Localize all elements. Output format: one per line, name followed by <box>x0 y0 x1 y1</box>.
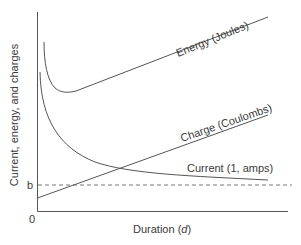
charge-label: Charge (Coulombs) <box>179 101 274 144</box>
chart: Energy (Joules) Charge (Coulombs) Curren… <box>0 0 301 245</box>
x-axis-label: Duration (d) <box>133 223 191 235</box>
x-axis-label-text: Duration ( <box>133 223 182 235</box>
y-axis-label: Current, energy, and charges <box>8 43 20 186</box>
charge-line <box>38 115 269 198</box>
y-tick-b: b <box>27 179 33 191</box>
x-axis-label-close: ) <box>187 223 191 235</box>
energy-label: Energy (Joules) <box>174 19 250 59</box>
current-label: Current (1, amps) <box>187 162 273 174</box>
y-tick-0: 0 <box>29 213 35 225</box>
